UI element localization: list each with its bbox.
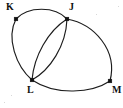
vertex-label-j: J: [69, 2, 74, 12]
scan-speck: [96, 14, 97, 15]
vertex-label-m: M: [112, 85, 121, 95]
vertex-label-l: L: [27, 85, 34, 95]
graph-canvas: [0, 0, 123, 108]
graph-diagram: K J L M: [0, 0, 123, 108]
vertex-dot-j: [65, 17, 69, 21]
vertex-dot-m: [108, 79, 112, 83]
vertex-dot-l: [30, 78, 34, 82]
edge-j-m: [67, 19, 112, 81]
vertex-label-k: K: [6, 2, 14, 12]
edge-l-j-left: [32, 19, 67, 80]
vertex-dot-k: [14, 17, 18, 21]
scan-speck: [11, 95, 12, 96]
edge-layer: [12, 9, 112, 91]
scan-speck: [4, 102, 5, 103]
edge-k-l: [12, 19, 32, 80]
edge-k-j: [16, 9, 67, 19]
edge-l-j-right: [32, 19, 67, 80]
scan-speck: [118, 6, 119, 7]
edge-l-m: [32, 80, 110, 91]
vertex-layer: [14, 17, 112, 83]
